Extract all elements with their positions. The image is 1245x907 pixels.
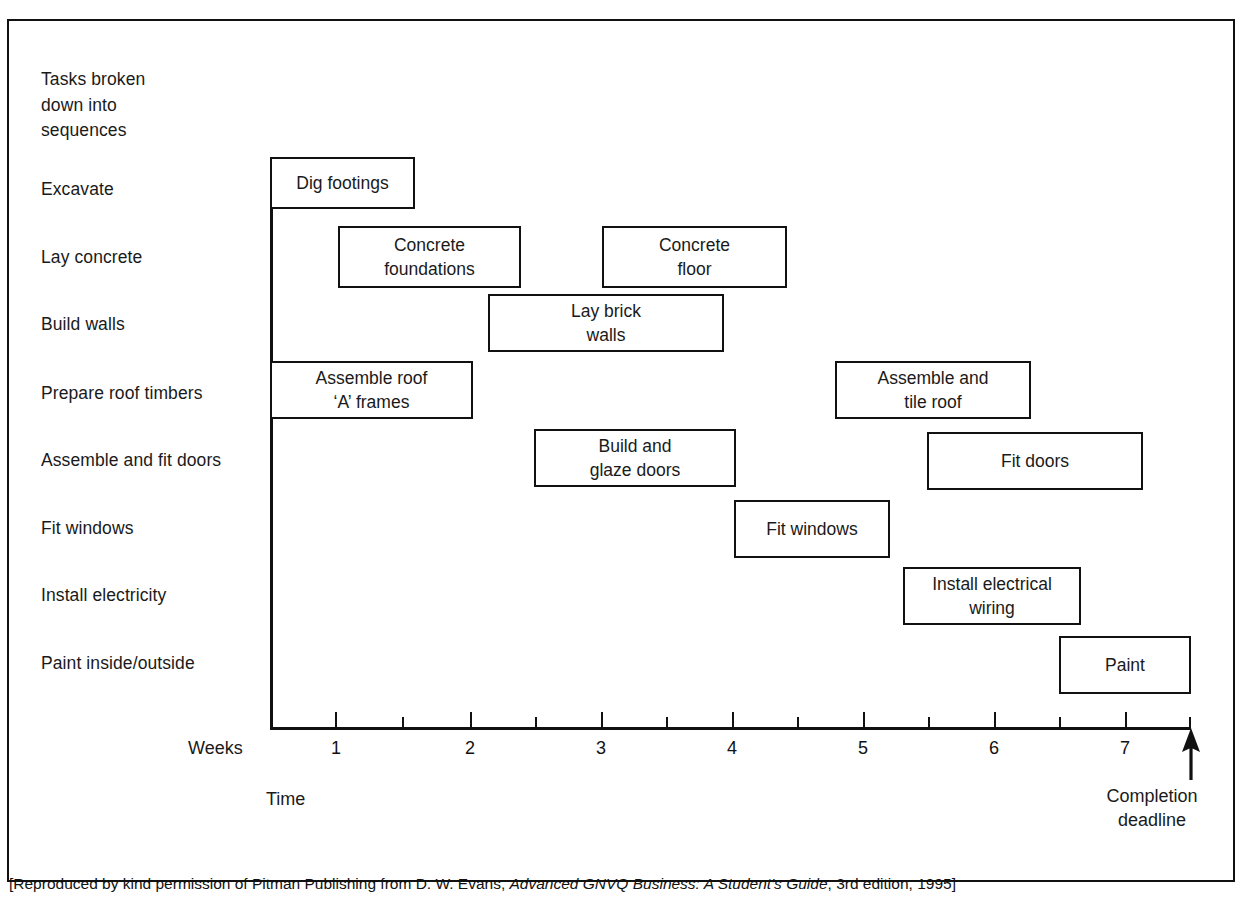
figure-caption: [Reproduced by kind permission of Pitman… [9, 874, 956, 894]
task-bar-fit-windows[interactable]: Fit windows [734, 500, 890, 558]
x-tick-label-6: 6 [974, 738, 1014, 759]
row-label-fit-windows: Fit windows [41, 516, 134, 541]
x-tick-major-1 [335, 712, 337, 727]
x-tick-major-4 [732, 712, 734, 727]
time-axis-label: Time [266, 789, 305, 810]
x-tick-major-3 [601, 712, 603, 727]
x-tick-label-5: 5 [843, 738, 883, 759]
x-tick-minor-6 [1059, 717, 1061, 727]
task-bar-install-electrical-wiring[interactable]: Install electrical wiring [903, 567, 1081, 625]
x-tick-minor-2 [535, 717, 537, 727]
task-bar-lay-brick-walls[interactable]: Lay brick walls [488, 294, 724, 352]
x-tick-minor-5 [928, 717, 930, 727]
x-tick-major-6 [994, 712, 996, 727]
x-tick-label-2: 2 [450, 738, 490, 759]
gantt-chart: Tasks broken down into sequences Excavat… [0, 0, 1245, 907]
task-bar-concrete-floor[interactable]: Concrete floor [602, 226, 787, 288]
x-tick-minor-1 [402, 717, 404, 727]
weeks-axis-label: Weeks [188, 738, 243, 759]
x-tick-major-7 [1125, 712, 1127, 727]
task-bar-assemble-roof-a-frames[interactable]: Assemble roof ‘A’ frames [270, 361, 473, 419]
task-bar-build-and-glaze-doors[interactable]: Build and glaze doors [534, 429, 736, 487]
x-axis-line [270, 727, 1191, 730]
x-tick-label-3: 3 [581, 738, 621, 759]
caption-title: Advanced GNVQ Business: A Student's Guid… [510, 875, 828, 892]
task-bar-concrete-foundations[interactable]: Concrete foundations [338, 226, 521, 288]
x-tick-minor-7 [1189, 717, 1191, 727]
x-tick-label-1: 1 [316, 738, 356, 759]
task-bar-paint[interactable]: Paint [1059, 636, 1191, 694]
row-label-assemble-and-fit-doors: Assemble and fit doors [41, 448, 221, 473]
row-label-paint-inside-outside: Paint inside/outside [41, 651, 195, 676]
task-bar-dig-footings[interactable]: Dig footings [270, 157, 415, 209]
completion-deadline-label: Completion deadline [1092, 784, 1212, 832]
chart-header-label: Tasks broken down into sequences [41, 67, 145, 144]
x-tick-label-7: 7 [1105, 738, 1145, 759]
task-bar-assemble-and-tile-roof[interactable]: Assemble and tile roof [835, 361, 1031, 419]
task-bar-fit-doors[interactable]: Fit doors [927, 432, 1143, 490]
row-label-prepare-roof-timbers: Prepare roof timbers [41, 381, 203, 406]
x-tick-minor-3 [666, 717, 668, 727]
row-label-lay-concrete: Lay concrete [41, 245, 142, 270]
row-label-excavate: Excavate [41, 177, 114, 202]
caption-prefix: [Reproduced by kind permission of Pitman… [9, 875, 510, 892]
caption-suffix: , 3rd edition, 1995] [828, 875, 956, 892]
row-label-install-electricity: Install electricity [41, 583, 166, 608]
row-label-build-walls: Build walls [41, 312, 125, 337]
x-tick-label-4: 4 [712, 738, 752, 759]
x-tick-major-5 [863, 712, 865, 727]
x-tick-minor-4 [797, 717, 799, 727]
y-axis-line [270, 157, 273, 729]
x-tick-major-2 [470, 712, 472, 727]
up-arrow-icon [1180, 728, 1202, 780]
